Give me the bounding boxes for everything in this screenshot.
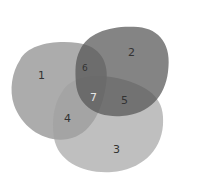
region-label-1: 1 <box>38 69 45 82</box>
region-label-6: 6 <box>82 63 88 73</box>
region-label-4: 4 <box>64 112 71 125</box>
venn-diagram: 1 2 3 4 5 6 7 <box>0 0 207 176</box>
region-label-5: 5 <box>121 94 128 107</box>
region-label-3: 3 <box>113 143 120 156</box>
region-label-7: 7 <box>90 91 97 104</box>
region-label-2: 2 <box>128 46 135 59</box>
